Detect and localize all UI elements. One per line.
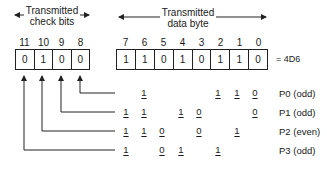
p1-bit-0: 0 [250,106,260,117]
check-bits-header-line2: check bits [22,16,82,27]
p0-bit-2: 1 [213,87,223,98]
p1-bit-6: 1 [139,106,149,117]
data-bit-0-value: 0 [249,50,267,69]
p2-connector-arrow [42,76,115,131]
p0-bit-6: 1 [139,87,149,98]
data-bit-1-value: 1 [230,50,249,69]
data-bit-2-value: 1 [211,50,230,69]
bit-position-8: 8 [71,37,90,48]
p2-label: P2 (even) [279,126,320,137]
data-byte-register: 1 1 0 1 0 1 1 0 [116,49,268,70]
hex-value-label: = 4D6 [276,54,300,64]
p1-bit-7: 1 [121,106,131,117]
bit-position-0: 0 [249,37,268,48]
bit-position-3: 3 [192,37,211,48]
data-byte-header-line1: Transmitted [160,7,216,18]
p1-connector-arrow [61,76,115,112]
p1-bit-3: 0 [194,106,204,117]
p0-connector-arrow [80,76,115,93]
bit-position-1: 1 [230,37,249,48]
bit-position-4: 4 [173,37,192,48]
bit-position-7: 7 [116,37,135,48]
p3-connector-arrow [24,76,115,150]
p0-label: P0 (odd) [279,88,315,99]
p2-bit-7: 1 [121,125,131,136]
p0-bit-0: 0 [250,87,260,98]
p1-label: P1 (odd) [279,107,315,118]
p2-bit-6: 1 [139,125,149,136]
p3-bit-7: 1 [121,144,131,155]
check-bit-10-value: 1 [35,50,54,69]
bit-position-5: 5 [154,37,173,48]
bit-position-9: 9 [52,37,71,48]
bit-position-6: 6 [135,37,154,48]
data-byte-header-line2: data byte [160,18,216,29]
p1-bit-4: 1 [176,106,186,117]
check-bits-register: 0 1 0 0 [15,49,90,70]
p3-label: P3 (odd) [279,145,315,156]
p2-bit-3: 0 [194,125,204,136]
check-bit-9-value: 0 [53,50,72,69]
check-bit-11-value: 0 [16,50,35,69]
data-bit-5-value: 0 [155,50,174,69]
data-bit-6-value: 1 [136,50,155,69]
bit-position-2: 2 [211,37,230,48]
data-bit-4-value: 1 [174,50,193,69]
p2-bit-5: 0 [157,125,167,136]
check-bits-header-line1: Transmitted [22,5,82,16]
p3-bit-5: 0 [157,144,167,155]
p2-bit-1: 1 [232,125,242,136]
check-bit-8-value: 0 [72,50,90,69]
data-bit-3-value: 0 [193,50,212,69]
data-byte-header: Transmitted data byte [160,7,216,29]
p3-bit-2: 1 [213,144,223,155]
bit-position-10: 10 [34,37,53,48]
check-bits-header: Transmitted check bits [22,5,82,27]
bit-position-11: 11 [15,37,34,48]
p3-bit-4: 1 [176,144,186,155]
data-bit-7-value: 1 [117,50,136,69]
p0-bit-1: 1 [232,87,242,98]
